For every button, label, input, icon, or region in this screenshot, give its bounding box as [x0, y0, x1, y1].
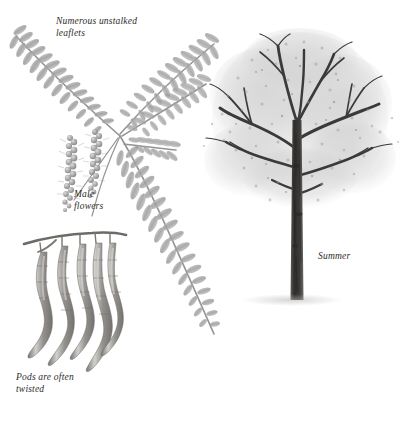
botanical-plate: Numerous unstalked leaflets Male flowers… [0, 0, 417, 423]
frond-upper-left [8, 23, 115, 135]
tree-ground-shadow [242, 294, 342, 306]
frond-right-arching [115, 144, 221, 328]
twisted-seed-pods [24, 233, 126, 372]
pod-bodies [28, 243, 123, 372]
summer-tree-habit [203, 28, 399, 306]
pod-1 [28, 252, 53, 358]
illustration-canvas [0, 0, 417, 423]
caption-summer: Summer [318, 251, 350, 263]
caption-numerous-unstalked-leaflets: Numerous unstalked leaflets [56, 16, 137, 39]
frond-upper-right-b [126, 72, 213, 137]
pod-2 [48, 246, 74, 366]
tree-trunk [291, 120, 304, 300]
caption-pods-are-often-twisted: Pods are often twisted [16, 372, 74, 395]
caption-male-flowers: Male flowers [74, 189, 103, 212]
